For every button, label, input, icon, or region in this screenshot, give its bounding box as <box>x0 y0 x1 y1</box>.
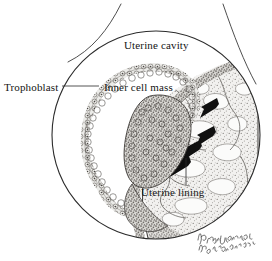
magnified-field <box>52 31 270 250</box>
artist-signature <box>198 234 255 254</box>
label-trophoblast: Trophoblast <box>4 81 58 93</box>
label-uterine-cavity: Uterine cavity <box>124 39 189 51</box>
label-inner-cell-mass: Inner cell mass <box>104 81 173 93</box>
label-uterine-lining: Uterine lining <box>141 186 205 198</box>
